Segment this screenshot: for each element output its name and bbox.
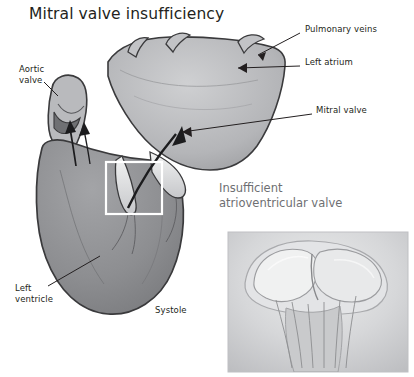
- label-systole: Systole: [155, 305, 187, 316]
- inset-papillary-trunk: [285, 306, 342, 372]
- label-left-ventricle: Left ventricle: [15, 283, 53, 304]
- label-aortic-valve: Aortic valve: [19, 64, 44, 85]
- label-pulmonary-veins: Pulmonary veins: [305, 24, 377, 35]
- label-left-atrium: Left atrium: [305, 57, 353, 68]
- page-title: Mitral valve insufficiency: [29, 5, 224, 23]
- inset-title: Insufficient atrioventricular valve: [219, 181, 342, 211]
- inset-panel: [228, 232, 408, 372]
- label-mitral-valve: Mitral valve: [316, 105, 367, 116]
- diagram-canvas: Mitral valve insufficiency Insufficient …: [0, 0, 414, 377]
